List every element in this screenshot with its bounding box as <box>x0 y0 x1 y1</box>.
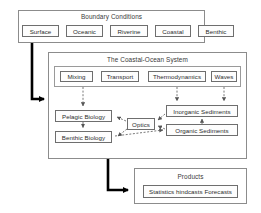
node-waves[interactable]: Waves <box>211 71 237 82</box>
node-optics[interactable]: Optics <box>127 118 155 130</box>
node-waves-label: Waves <box>215 73 234 80</box>
node-mixing[interactable]: Mixing <box>60 71 93 82</box>
node-riverine[interactable]: Riverine <box>110 25 148 37</box>
node-statistics-hindcasts-forecasts-label: Statistics hindcasts Forecasts <box>149 188 232 195</box>
node-coastal[interactable]: Coastal <box>155 25 191 37</box>
node-statistics-hindcasts-forecasts[interactable]: Statistics hindcasts Forecasts <box>143 185 238 198</box>
node-coastal-label: Coastal <box>162 28 183 35</box>
node-mixing-label: Mixing <box>67 73 85 80</box>
node-surface[interactable]: Surface <box>22 25 59 37</box>
node-optics-label: Optics <box>132 121 150 128</box>
node-thermodynamics[interactable]: Thermodynamics <box>148 71 206 82</box>
node-oceanic[interactable]: Oceanic <box>66 25 103 37</box>
node-benthic-biology-label: Benthic Biology <box>62 134 105 141</box>
node-organic-sediments[interactable]: Organic Sediments <box>166 124 238 136</box>
node-benthic-label: Benthic <box>206 28 227 35</box>
products-title: Products <box>134 173 247 180</box>
node-inorganic-sediments[interactable]: Inorganic Sediments <box>166 105 238 117</box>
node-thermodynamics-label: Thermodynamics <box>153 73 201 80</box>
node-organic-sediments-label: Organic Sediments <box>175 127 228 134</box>
arrow-boundary-to-system <box>32 43 44 99</box>
node-oceanic-label: Oceanic <box>73 28 96 35</box>
coastal-ocean-system-title: The Coastal-Ocean System <box>48 56 247 63</box>
node-pelagic-biology-label: Pelagic Biology <box>62 113 105 120</box>
diagram-canvas: Boundary Conditions Surface Oceanic Rive… <box>0 0 261 213</box>
arrow-system-to-products <box>108 159 128 190</box>
node-inorganic-sediments-label: Inorganic Sediments <box>173 108 230 115</box>
node-transport[interactable]: Transport <box>101 71 139 82</box>
node-benthic-biology[interactable]: Benthic Biology <box>55 131 112 143</box>
node-pelagic-biology[interactable]: Pelagic Biology <box>55 110 112 122</box>
node-riverine-label: Riverine <box>117 28 140 35</box>
boundary-conditions-title: Boundary Conditions <box>18 13 205 20</box>
node-surface-label: Surface <box>30 28 52 35</box>
node-benthic[interactable]: Benthic <box>198 25 234 37</box>
node-transport-label: Transport <box>107 73 134 80</box>
